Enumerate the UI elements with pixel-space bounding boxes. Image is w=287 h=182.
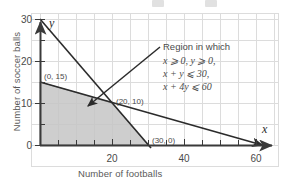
graph-figure: 20 40 60 0 10 20 30 y x (0, 15) (20, 10)… — [0, 0, 287, 182]
y-tick-label-30: 30 — [21, 14, 33, 25]
y-axis-symbol: y — [48, 16, 55, 30]
x-tick-label-60: 60 — [250, 153, 262, 164]
annotation-line-2: x + y ⩽ 30, — [162, 68, 209, 79]
vertex-label-20-10: (20, 10) — [116, 97, 144, 106]
plot-area: 20 40 60 0 10 20 30 y x (0, 15) (20, 10)… — [0, 0, 287, 182]
y-tick-label-0: 0 — [26, 140, 32, 151]
vertex-label-30-0: (30, 0) — [152, 136, 175, 145]
vertex-label-0-15: (0, 15) — [44, 72, 67, 81]
annotation-line-3: x + 4y ⩽ 60 — [162, 81, 212, 92]
x-tick-label-40: 40 — [178, 153, 190, 164]
annotation-heading: Region in which — [163, 41, 230, 52]
x-axis-title: Number of footballs — [78, 168, 162, 179]
annotation-line-1: x ⩾ 0, y ⩾ 0, — [162, 55, 215, 66]
x-axis-symbol: x — [261, 122, 268, 136]
x-tick-label-20: 20 — [106, 153, 118, 164]
y-axis-title: Number of soccer balls — [11, 22, 22, 142]
y-tick-label-10: 10 — [21, 98, 33, 109]
y-tick-label-20: 20 — [21, 56, 33, 67]
